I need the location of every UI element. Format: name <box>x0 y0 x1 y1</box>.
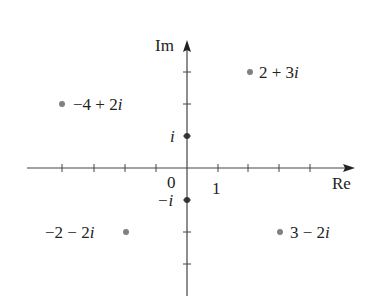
point-neg2-minus-2i: −2 − 2i <box>45 223 129 242</box>
point-2-plus-3i: 2 + 3i <box>247 63 299 82</box>
unit-imag-label: i <box>170 127 175 146</box>
svg-text:−2 − 2i: −2 − 2i <box>45 223 95 242</box>
point-3-minus-2i: 3 − 2i <box>277 223 330 242</box>
complex-plane-diagram: Im Re 0 1 i −i 2 + 3i −4 + 2i −2 − 2i 3 … <box>0 0 372 296</box>
point-neg4-plus-2i: −4 + 2i <box>59 95 123 114</box>
origin-label: 0 <box>167 173 176 192</box>
point-i <box>184 133 190 139</box>
real-axis-label: Re <box>332 174 351 193</box>
neg-unit-imag-label: −i <box>157 191 173 210</box>
imag-axis-label: Im <box>155 36 174 55</box>
svg-text:3 − 2i: 3 − 2i <box>290 223 330 242</box>
svg-text:−4 + 2i: −4 + 2i <box>73 95 123 114</box>
point-neg-i <box>184 197 190 203</box>
svg-text:2 + 3i: 2 + 3i <box>259 63 299 82</box>
unit-real-label: 1 <box>212 179 221 198</box>
